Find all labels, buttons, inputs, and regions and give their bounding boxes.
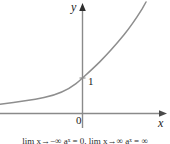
origin-label: 0 [76, 115, 82, 126]
figure-caption: lim x→−∞ aˣ = 0, lim x→∞ aˣ = ∞ [0, 136, 170, 144]
axis-label-x: x [158, 117, 163, 129]
exponential-graph-figure: y x 1 0 lim x→−∞ aˣ = 0, lim x→∞ aˣ = ∞ [0, 0, 170, 144]
axis-label-y: y [71, 1, 76, 13]
exponential-curve [0, 2, 146, 104]
graph-canvas [0, 0, 170, 144]
y-axis-arrow-icon [79, 3, 86, 11]
y-intercept-label: 1 [88, 76, 94, 87]
